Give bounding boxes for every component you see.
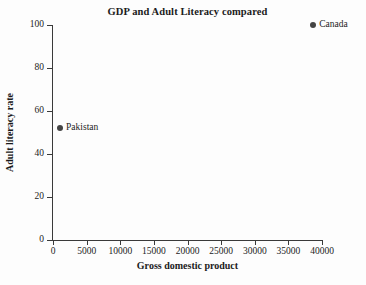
x-tick-mark [322,240,323,245]
x-tick: 25000 [221,240,222,245]
y-tick-mark [47,154,52,155]
x-tick: 5000 [87,240,88,245]
y-tick-mark [47,68,52,69]
y-tick-label: 40 [35,148,45,158]
data-point-marker [310,22,316,28]
y-tick: 40 [47,154,52,155]
x-tick-label: 20000 [176,246,200,256]
x-tick: 20000 [188,240,189,245]
x-tick-mark [188,240,189,245]
y-tick-label: 60 [35,105,45,115]
y-tick: 60 [47,111,52,112]
x-tick-label: 30000 [243,246,267,256]
x-tick-label: 0 [51,246,56,256]
y-tick-label: 20 [35,191,45,201]
x-tick-mark [288,240,289,245]
x-tick-label: 10000 [108,246,132,256]
plot-area: CanadaPakistan [53,25,322,240]
x-tick-label: 35000 [277,246,301,256]
y-tick: 80 [47,68,52,69]
y-tick-label: 80 [35,62,45,72]
y-tick: 100 [47,25,52,26]
y-axis-title: Adult literacy rate [4,25,18,240]
x-tick: 30000 [255,240,256,245]
x-axis-title: Gross domestic product [53,260,322,271]
x-tick: 0 [53,240,54,245]
data-point-label: Pakistan [66,122,98,132]
chart-screenshot: GDP and Adult Literacy compared 02040608… [0,0,366,285]
x-tick-label: 5000 [77,246,96,256]
x-tick-label: 40000 [310,246,334,256]
x-tick-mark [154,240,155,245]
x-tick-label: 15000 [142,246,166,256]
x-tick-mark [221,240,222,245]
x-tick-mark [120,240,121,245]
x-tick: 35000 [288,240,289,245]
x-tick: 10000 [120,240,121,245]
x-tick-mark [255,240,256,245]
data-point-marker [57,125,63,131]
y-tick-label: 100 [30,19,44,29]
y-tick-mark [47,240,52,241]
x-tick-label: 25000 [209,246,233,256]
x-tick: 40000 [322,240,323,245]
y-tick-mark [47,111,52,112]
y-tick: 0 [47,240,52,241]
x-tick-mark [53,240,54,245]
y-tick: 20 [47,197,52,198]
y-tick-mark [47,25,52,26]
chart-title: GDP and Adult Literacy compared [53,6,322,17]
y-tick-label: 0 [39,234,44,244]
x-tick-mark [87,240,88,245]
x-tick: 15000 [154,240,155,245]
y-tick-mark [47,197,52,198]
data-point-label: Canada [319,19,348,29]
